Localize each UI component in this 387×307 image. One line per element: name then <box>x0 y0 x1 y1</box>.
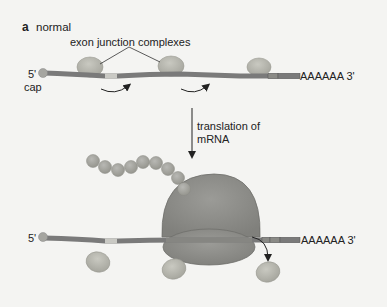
amino-acid-bead <box>87 155 100 168</box>
panel-letter: a <box>22 21 29 33</box>
top-mrna-stop-segment <box>268 74 278 79</box>
curved-arrow-1 <box>101 86 128 92</box>
displaced-ejc-3 <box>254 259 282 285</box>
ejc-leader-line-2 <box>129 47 160 62</box>
bottom-mrna-inside-ribosome <box>166 238 252 243</box>
ribosome-group <box>39 155 301 285</box>
polypeptide-chain <box>87 155 185 185</box>
cap-label: cap <box>24 81 42 93</box>
ejc-oval-3 <box>247 58 271 76</box>
amino-acid-bead <box>99 161 112 174</box>
five-prime-label-top: 5' <box>28 68 36 80</box>
bottom-mrna-stop-segment-1 <box>262 238 270 243</box>
bottom-mrna-stop-segment-2 <box>270 238 280 243</box>
amino-acid-bead <box>162 163 175 176</box>
top-5prime-cap <box>39 69 48 78</box>
amino-acid-bead <box>137 156 150 169</box>
top-mrna-group <box>39 47 301 92</box>
amino-acid-bead-attached <box>178 183 191 196</box>
amino-acid-bead <box>150 157 163 170</box>
bottom-mrna-utr-segment <box>280 238 300 243</box>
amino-acid-bead <box>112 164 125 177</box>
panel-title: normal <box>36 21 71 33</box>
polya-label-bottom: AAAAAA 3' <box>301 234 356 246</box>
top-mrna-light-segment <box>105 74 117 79</box>
ejc-leader-line-1 <box>100 47 129 64</box>
bottom-5prime-cap <box>39 233 48 242</box>
mrna-translation-diagram <box>0 0 387 307</box>
translation-label-line2: mRNA <box>197 133 229 145</box>
translation-label-line1: translation of <box>197 120 260 132</box>
five-prime-label-bottom: 5' <box>28 232 36 244</box>
displaced-ejc-1 <box>84 249 112 275</box>
bottom-mrna-light-segment <box>105 239 117 244</box>
polya-label-top: AAAAAA 3' <box>300 70 355 82</box>
ejc-label: exon junction complexes <box>70 36 190 48</box>
top-mrna-utr-segment <box>278 74 300 79</box>
amino-acid-bead <box>125 161 138 174</box>
curved-arrow-2 <box>181 86 207 92</box>
